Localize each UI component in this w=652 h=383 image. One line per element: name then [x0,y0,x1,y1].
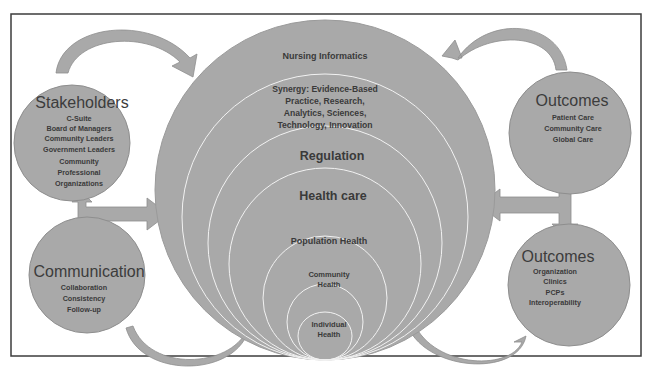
stakeholders-item: Board of Managers [46,124,111,133]
nursing-informatics-diagram: Nursing Informatics Synergy: Evidence-Ba… [0,0,652,383]
outcomes-top-item: Patient Care [552,113,594,122]
nursing-informatics-title: Nursing Informatics [282,51,367,61]
outcomes-bottom-item: PCPs [546,288,565,297]
outcomes-top-circle [509,72,631,194]
synergy-line-2: Practice, Research, [285,96,364,106]
population-health-label: Population Health [291,236,368,246]
regulation-label: Regulation [300,149,365,163]
communication-title: Communication [33,263,144,280]
synergy-line-4: Technology, Innovation [277,120,372,130]
individual-health-line-1: Individual [311,320,346,329]
outcomes-top-title: Outcomes [536,92,609,109]
stakeholders-item: Community Leaders [44,134,113,143]
stakeholders-item: Professional [57,168,100,177]
communication-item: Follow-up [67,305,102,314]
communication-item: Consistency [63,294,106,303]
community-health-line-2: Health [318,280,341,289]
stakeholders-item: Organizations [55,179,103,188]
health-care-label: Health care [299,189,366,203]
outcomes-bottom-circle [508,224,630,346]
outcomes-bottom-item: Interoperability [529,298,581,307]
community-health-line-1: Community [308,270,350,279]
stakeholders-item: Government Leaders [43,145,115,154]
communication-item: Collaboration [61,283,107,292]
outcomes-bottom-item: Organization [533,267,577,276]
outcomes-bottom-title: Outcomes [522,248,595,265]
stakeholders-item: C-Suite [66,114,91,123]
stakeholders-title: Stakeholders [35,94,128,111]
outcomes-top-item: Global Care [553,135,593,144]
outcomes-top-item: Community Care [544,124,602,133]
synergy-line-3: Analytics, Sciences, [284,108,367,118]
synergy-line-1: Synergy: Evidence-Based [272,84,378,94]
stakeholders-item: Community [59,157,99,166]
outcomes-bottom-item: Clinics [543,277,567,286]
individual-health-line-2: Health [318,330,341,339]
